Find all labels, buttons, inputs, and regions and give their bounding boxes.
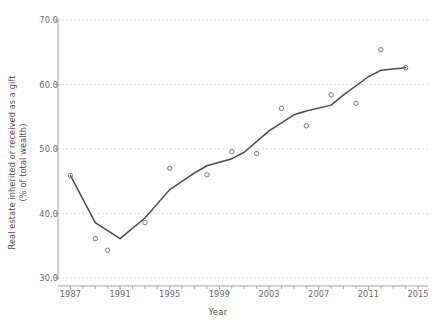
data-point-marker — [329, 93, 333, 97]
data-point-marker — [354, 101, 358, 105]
x-tick-label-2015: 2015 — [398, 289, 436, 299]
data-point-marker — [105, 248, 109, 252]
chart-figure: Real estate inherited or received as a g… — [0, 0, 436, 325]
data-point-marker — [279, 106, 283, 110]
y-tick-label-60.0: 60.0 — [18, 80, 58, 90]
x-tick-label-1987: 1987 — [50, 289, 90, 299]
x-tick-label-2003: 2003 — [249, 289, 289, 299]
data-point-marker — [230, 149, 234, 153]
x-axis-label: Year — [0, 307, 436, 317]
data-point-marker — [379, 47, 383, 51]
x-tick-label-1995: 1995 — [150, 289, 190, 299]
trend-line — [70, 68, 405, 239]
plot-area — [0, 0, 436, 325]
data-point-marker — [168, 166, 172, 170]
y-tick-label-30.0: 30.0 — [18, 273, 58, 283]
y-tick-label-40.0: 40.0 — [18, 209, 58, 219]
x-tick-label-1999: 1999 — [199, 289, 239, 299]
x-tick-label-1991: 1991 — [100, 289, 140, 299]
y-tick-label-70.0: 70.0 — [18, 15, 58, 25]
y-tick-label-50.0: 50.0 — [18, 144, 58, 154]
data-point-marker — [205, 173, 209, 177]
data-point-marker — [93, 236, 97, 240]
data-point-marker — [143, 220, 147, 224]
data-point-marker — [304, 124, 308, 128]
x-tick-label-2011: 2011 — [348, 289, 388, 299]
x-tick-label-2007: 2007 — [299, 289, 339, 299]
data-point-marker — [254, 151, 258, 155]
